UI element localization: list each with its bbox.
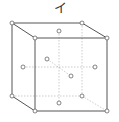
cube-diagram [0, 0, 119, 122]
